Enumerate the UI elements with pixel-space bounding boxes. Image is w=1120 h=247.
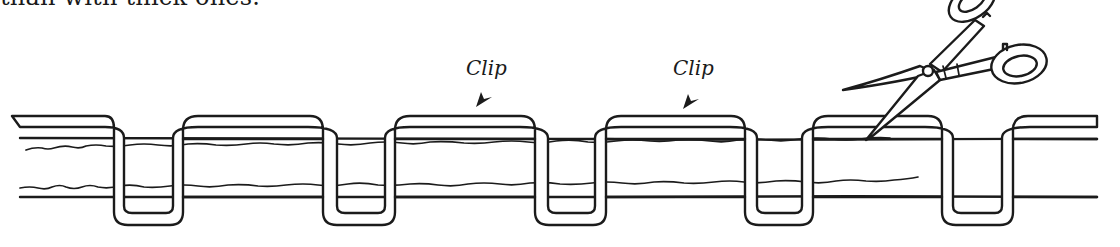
clip-arrow-2 xyxy=(683,94,699,109)
stitch-diagram xyxy=(0,0,1120,247)
clip-arrow-1 xyxy=(476,92,492,107)
stitch-thread xyxy=(12,116,1097,225)
